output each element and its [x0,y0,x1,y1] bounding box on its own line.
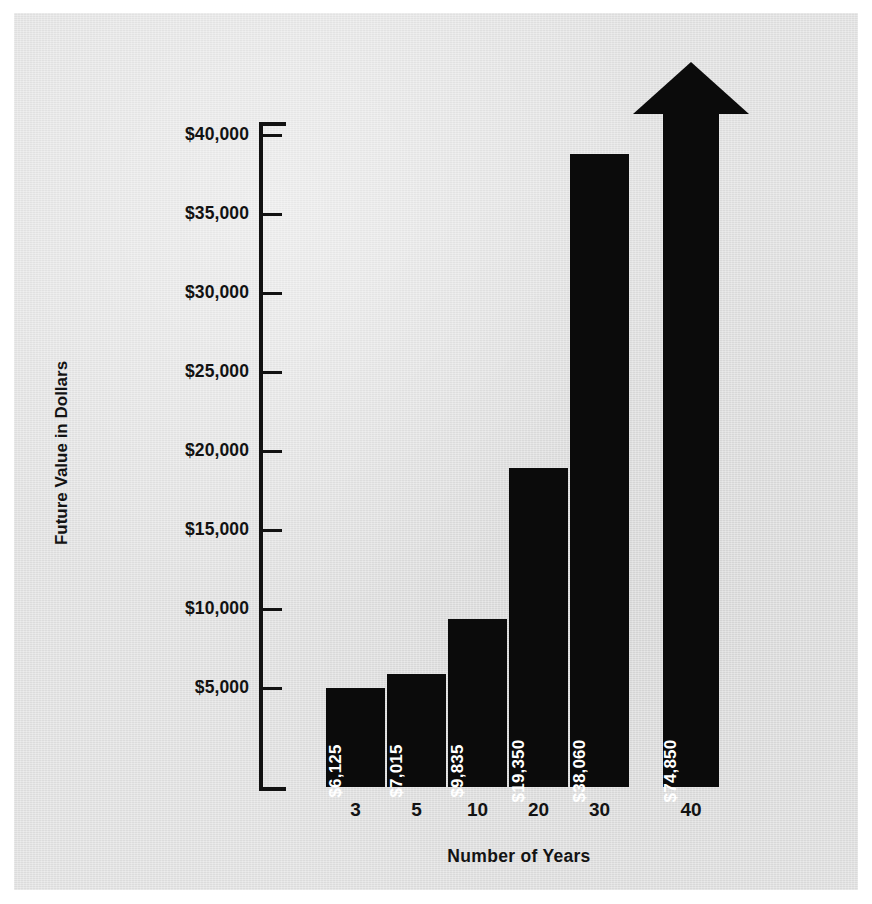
bar-value-label-40-years: $74,850 [671,740,691,803]
bar-value-label-10-years: $9,835 [458,744,478,797]
x-axis-title: Number of Years [259,846,779,867]
x-tick-label-5: 5 [387,799,446,821]
bar-40-years[interactable]: $74,850 [663,101,719,787]
bar-5-years[interactable]: $7,015 [387,674,446,787]
bar-group: $6,125 $7,015 $9,835 $19,350 [14,13,858,890]
bar-3-years[interactable]: $6,125 [326,688,385,787]
bar-value-label-30-years: $38,060 [580,740,600,803]
up-arrow-head-icon [633,62,749,114]
x-tick-label-20: 20 [509,799,568,821]
x-tick-label-30: 30 [570,799,629,821]
figure-page: $40,000 $35,000 $30,000 $25,000 $20,000 … [0,0,872,904]
scanned-paper-panel: $40,000 $35,000 $30,000 $25,000 $20,000 … [14,13,858,890]
bar-30-years[interactable]: $38,060 [570,154,629,787]
bar-10-years[interactable]: $9,835 [448,619,507,787]
x-tick-label-10: 10 [448,799,507,821]
bar-20-years[interactable]: $19,350 [509,468,568,787]
bar-value-label-5-years: $7,015 [397,744,417,797]
bar-value-label-3-years: $6,125 [336,744,356,797]
x-tick-label-40: 40 [663,799,719,821]
bar-chart-plot: $40,000 $35,000 $30,000 $25,000 $20,000 … [14,13,858,890]
x-tick-label-3: 3 [326,799,385,821]
bar-value-label-20-years: $19,350 [519,740,539,803]
